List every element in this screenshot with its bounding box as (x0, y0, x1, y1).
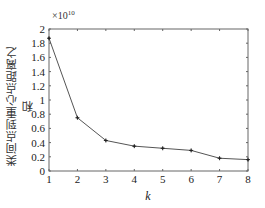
series-line (49, 38, 248, 159)
y-tick-label: 1.2 (31, 80, 45, 92)
y-tick-label: 2 (40, 23, 46, 35)
y-tick-label: 0.2 (31, 151, 45, 163)
x-tick-label: 7 (217, 173, 223, 185)
data-point-marker (132, 144, 136, 148)
y-tick-label: 0.4 (31, 137, 45, 149)
y-tick-label: 1.4 (31, 66, 45, 78)
x-tick-label: 8 (245, 173, 251, 185)
x-tick-label: 6 (188, 173, 194, 185)
x-tick-label: 2 (75, 173, 81, 185)
x-tick-label: 3 (103, 173, 109, 185)
axis-ticks: 1234567800.20.40.60.811.21.41.61.82 (31, 23, 251, 185)
x-tick-label: 5 (160, 173, 166, 185)
y-tick-label: 1.6 (31, 51, 45, 63)
y-tick-label: 0 (40, 165, 46, 177)
x-tick-label: 1 (46, 173, 52, 185)
data-point-marker (189, 148, 193, 152)
data-series (47, 36, 250, 161)
plot-frame (49, 29, 248, 171)
y-tick-label: 0.6 (31, 122, 45, 134)
data-point-marker (246, 158, 250, 162)
plot-axes (49, 29, 248, 171)
x-axis-label: k (145, 189, 151, 203)
data-point-marker (47, 36, 51, 40)
data-point-marker (218, 156, 222, 160)
y-tick-label: 0.8 (31, 108, 45, 120)
line-chart: 1234567800.20.40.60.811.21.41.61.82 k (0, 0, 265, 208)
y-tick-label: 1 (40, 94, 46, 106)
y-tick-label: 1.8 (31, 37, 45, 49)
x-tick-label: 4 (132, 173, 138, 185)
data-point-marker (161, 146, 165, 150)
